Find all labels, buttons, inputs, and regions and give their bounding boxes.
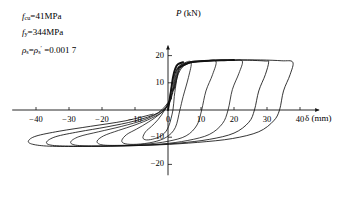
x-axis-tick-label: 40 xyxy=(286,114,314,124)
x-axis-tick-label: 30 xyxy=(253,114,281,124)
x-axis-tick-label: −10 xyxy=(121,114,149,124)
x-axis-tick-label: 20 xyxy=(220,114,248,124)
plot-area xyxy=(0,0,344,224)
y-axis-arrow xyxy=(166,45,170,49)
x-axis-tick-label: 0 xyxy=(154,114,182,124)
x-axis-tick-label: −40 xyxy=(22,114,50,124)
x-axis-arrow xyxy=(315,108,319,112)
hysteresis-figure: fcu=41MPa fy=344MPa ρs=ρs′ =0.001 7 P (k… xyxy=(0,0,344,224)
x-axis-tick-label: −20 xyxy=(88,114,116,124)
positive-envelope-backbone-curve xyxy=(179,60,234,68)
x-axis-tick-label: −30 xyxy=(55,114,83,124)
axes-group xyxy=(12,45,319,175)
y-axis-tick-label: −10 xyxy=(138,131,164,141)
y-axis-tick-label: 10 xyxy=(138,77,164,87)
x-axis-tick-label: 10 xyxy=(187,114,215,124)
y-axis-tick-label: −20 xyxy=(138,158,164,168)
y-axis-tick-label: 20 xyxy=(138,50,164,60)
